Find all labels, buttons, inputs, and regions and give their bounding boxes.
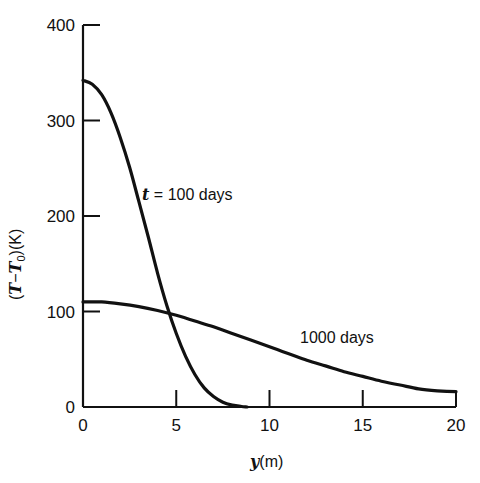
curve-100-days xyxy=(83,80,247,407)
data-series xyxy=(83,80,456,407)
axes xyxy=(83,25,456,407)
x-tick-label: 20 xyxy=(447,416,466,435)
y-tick-label: 400 xyxy=(47,16,75,35)
x-tick-label: 10 xyxy=(260,416,279,435)
y-axis-title: (T−T0)(K) xyxy=(6,229,27,300)
y-tick-label: 100 xyxy=(47,303,75,322)
y-tick-label: 300 xyxy=(47,112,75,131)
x-axis-title: y(m) xyxy=(249,452,283,471)
x-tick-label: 15 xyxy=(353,416,372,435)
curve-1000-days xyxy=(83,302,456,392)
line-chart: 0100200300400 05101520 t = 100 days 1000… xyxy=(0,0,480,483)
x-tick-label: 5 xyxy=(172,416,181,435)
y-tick-label: 0 xyxy=(66,398,75,417)
annotation-100-days: t = 100 days xyxy=(142,185,233,204)
annotation-1000-days: 1000 days xyxy=(300,329,374,346)
x-axis-ticks: 05101520 xyxy=(78,390,465,435)
x-tick-label: 0 xyxy=(78,416,87,435)
y-tick-label: 200 xyxy=(47,207,75,226)
svg-text:(T−T0)(K): (T−T0)(K) xyxy=(6,229,27,300)
y-axis-ticks: 0100200300400 xyxy=(47,16,100,417)
